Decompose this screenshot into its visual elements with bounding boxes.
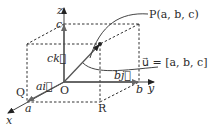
R-label: R bbox=[98, 102, 107, 115]
Q-label: Q bbox=[16, 86, 25, 99]
point-P bbox=[98, 42, 102, 46]
vector-diagram: z c ck⃗ ai⃗ O Q a x R bj⃗ b y P(a, b, c)… bbox=[0, 0, 208, 131]
P-label: P(a, b, c) bbox=[149, 8, 199, 21]
b-label: b bbox=[136, 83, 143, 96]
position-vector-u bbox=[64, 45, 99, 82]
z-axis-label: z bbox=[56, 4, 63, 17]
bj-label: bj⃗ bbox=[114, 69, 131, 82]
x-axis-label: x bbox=[6, 114, 13, 127]
y-axis-label: y bbox=[147, 82, 155, 95]
top-right-edge bbox=[100, 24, 139, 44]
bottom-right-edge bbox=[100, 82, 139, 102]
ai-label: ai⃗ bbox=[36, 80, 53, 93]
origin-label: O bbox=[60, 84, 69, 97]
ck-label: ck⃗ bbox=[47, 52, 66, 65]
vector-u-label: u⃗ = [a, b, c] bbox=[142, 56, 208, 69]
a-label: a bbox=[25, 102, 32, 115]
c-label: c bbox=[56, 18, 62, 31]
